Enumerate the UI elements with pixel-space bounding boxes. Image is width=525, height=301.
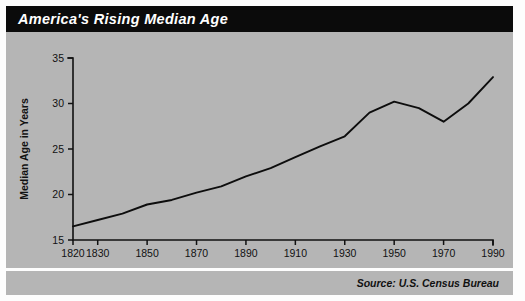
x-axis-tick-label: 1870 <box>185 247 209 259</box>
source-attribution: Source: U.S. Census Bureau <box>357 277 499 289</box>
y-axis-tick-label: 15 <box>52 234 64 246</box>
x-axis-tick-label: 1930 <box>333 247 357 259</box>
y-axis-tick-label: 20 <box>52 188 64 200</box>
y-axis-tick-label: 30 <box>52 97 64 109</box>
y-axis-tick-label: 35 <box>52 52 64 64</box>
data-series-line <box>73 77 493 226</box>
x-axis-tick-label: 1820 <box>61 247 85 259</box>
title-banner: America's Rising Median Age <box>6 6 513 32</box>
y-axis-title: Median Age in Years <box>18 98 30 200</box>
line-chart: 1520253035182018301850187018901910193019… <box>6 32 513 268</box>
x-axis-tick-label: 1970 <box>432 247 456 259</box>
footer-band: Source: U.S. Census Bureau <box>6 271 513 295</box>
x-axis-tick-label: 1990 <box>481 247 505 259</box>
axis-spine <box>68 58 493 245</box>
x-axis-tick-label: 1910 <box>284 247 308 259</box>
x-axis-tick-label: 1890 <box>234 247 258 259</box>
chart-figure: America's Rising Median Age 152025303518… <box>0 0 525 301</box>
x-axis-tick-label: 1830 <box>86 247 110 259</box>
x-axis-tick-label: 1850 <box>135 247 159 259</box>
x-axis-tick-label: 1950 <box>382 247 406 259</box>
y-axis-tick-label: 25 <box>52 143 64 155</box>
page-title: America's Rising Median Age <box>18 11 228 27</box>
plot-panel: 1520253035182018301850187018901910193019… <box>6 32 513 268</box>
